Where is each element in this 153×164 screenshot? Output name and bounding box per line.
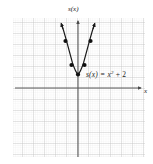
equation-base: s(x) = x bbox=[86, 70, 111, 79]
point-right-outer bbox=[88, 39, 92, 43]
point-left-inner bbox=[69, 63, 73, 67]
equation-operator: + 2 bbox=[114, 70, 127, 79]
point-vertex bbox=[76, 72, 80, 76]
point-left-outer bbox=[63, 39, 67, 43]
coordinate-plane bbox=[0, 0, 153, 164]
y-axis-label: s(x) bbox=[68, 6, 79, 13]
point-right-inner bbox=[82, 63, 86, 67]
x-axis-label: x bbox=[144, 88, 147, 95]
equation-label: s(x) = x2 + 2 bbox=[86, 71, 126, 79]
graph-figure: s(x) x s(x) = x2 + 2 bbox=[0, 0, 153, 164]
